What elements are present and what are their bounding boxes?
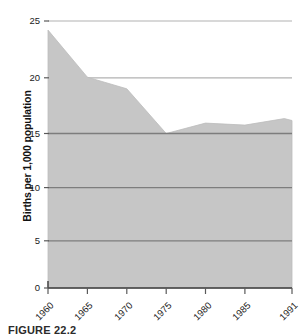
x-tick-label-1970: 1970 xyxy=(106,300,134,328)
x-tick-label-1985: 1985 xyxy=(224,300,252,328)
figure-caption: FIGURE 22.2 xyxy=(8,324,76,336)
x-tick-label-1991: 1991 xyxy=(271,300,299,328)
x-tick-label-1975: 1975 xyxy=(145,300,173,328)
x-tick-label-1980: 1980 xyxy=(185,300,213,328)
